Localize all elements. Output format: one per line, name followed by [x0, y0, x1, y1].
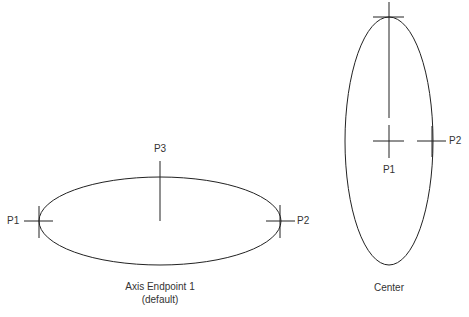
- left-caption-line1: Axis Endpoint 1: [125, 281, 195, 293]
- left-p1-marker: [24, 206, 53, 238]
- left-p3-label: P3: [154, 143, 166, 155]
- left-p2-label: P2: [297, 215, 309, 227]
- left-caption-line2: (default): [142, 294, 179, 306]
- right-p2-label: P2: [449, 135, 461, 147]
- left-p2-marker: [266, 205, 295, 238]
- left-p1-label: P1: [7, 215, 19, 227]
- right-p1-label: P1: [383, 164, 395, 176]
- right-p1-marker: [373, 125, 404, 158]
- ellipse-diagram: P1 P2 P3 Axis Endpoint 1 (default) P1 P2…: [0, 0, 469, 317]
- right-p2-marker: [417, 126, 446, 157]
- right-caption: Center: [374, 282, 404, 294]
- right-top-marker: [373, 2, 404, 118]
- diagram-graphics: [0, 0, 469, 317]
